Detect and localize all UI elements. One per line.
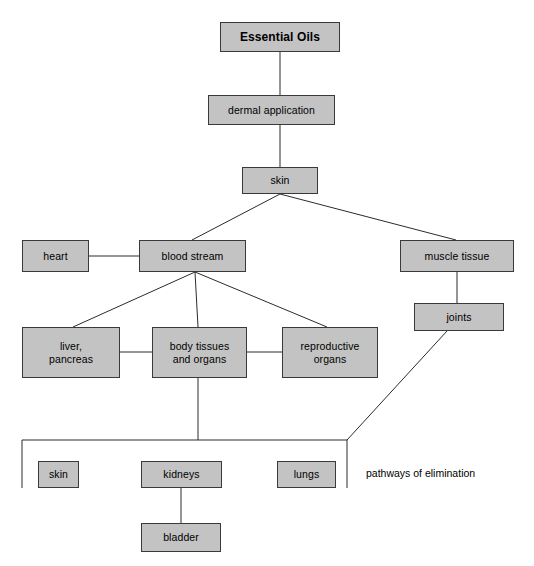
pathways-of-elimination-annotation: pathways of elimination xyxy=(366,467,475,479)
node-reproductive-organs[interactable]: reproductive organs xyxy=(282,327,378,378)
node-label: liver, pancreas xyxy=(49,340,93,366)
node-label: body tissues and organs xyxy=(170,340,230,366)
node-label: joints xyxy=(446,311,471,324)
node-label: reproductive organs xyxy=(301,340,360,366)
node-label: skin xyxy=(49,468,68,481)
edge-skin-muscle-tissue xyxy=(280,194,456,240)
node-label: dermal application xyxy=(228,104,315,117)
node-label: Essential Oils xyxy=(240,31,320,44)
node-label: lungs xyxy=(294,468,320,481)
node-label: skin xyxy=(270,174,289,187)
node-heart[interactable]: heart xyxy=(22,240,89,272)
connector-lines xyxy=(0,0,534,566)
node-muscle-tissue[interactable]: muscle tissue xyxy=(400,240,514,272)
node-bladder[interactable]: bladder xyxy=(141,523,221,552)
diagram-canvas: Essential Oils dermal application skin h… xyxy=(0,0,534,566)
edge-blood-stream-body-tissues xyxy=(195,272,198,327)
node-body-tissues-and-organs[interactable]: body tissues and organs xyxy=(152,327,247,378)
node-joints[interactable]: joints xyxy=(414,303,504,331)
edge-skin-blood-stream xyxy=(192,194,280,240)
node-skin-elimination[interactable]: skin xyxy=(38,461,79,488)
node-liver-pancreas[interactable]: liver, pancreas xyxy=(22,327,120,378)
node-skin[interactable]: skin xyxy=(242,167,318,194)
node-label: kidneys xyxy=(163,468,199,481)
node-label: blood stream xyxy=(162,250,224,263)
node-dermal-application[interactable]: dermal application xyxy=(208,95,335,125)
node-label: heart xyxy=(43,250,67,263)
node-kidneys[interactable]: kidneys xyxy=(141,461,222,488)
node-label: muscle tissue xyxy=(425,250,490,263)
node-lungs[interactable]: lungs xyxy=(277,461,336,488)
node-blood-stream[interactable]: blood stream xyxy=(139,240,246,272)
edge-blood-stream-liver-pancreas xyxy=(73,272,195,327)
node-label: bladder xyxy=(163,531,199,544)
node-essential-oils[interactable]: Essential Oils xyxy=(220,22,340,52)
edge-blood-stream-reproductive-organs xyxy=(195,272,327,327)
